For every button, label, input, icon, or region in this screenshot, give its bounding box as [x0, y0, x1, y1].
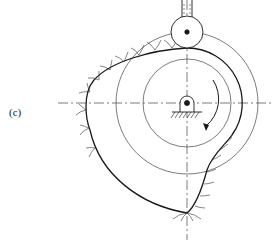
- cam-pivot: [171, 96, 202, 118]
- cam-profile: [86, 48, 232, 213]
- cam-diagram: [0, 0, 273, 240]
- base-circle-arc: [187, 48, 242, 135]
